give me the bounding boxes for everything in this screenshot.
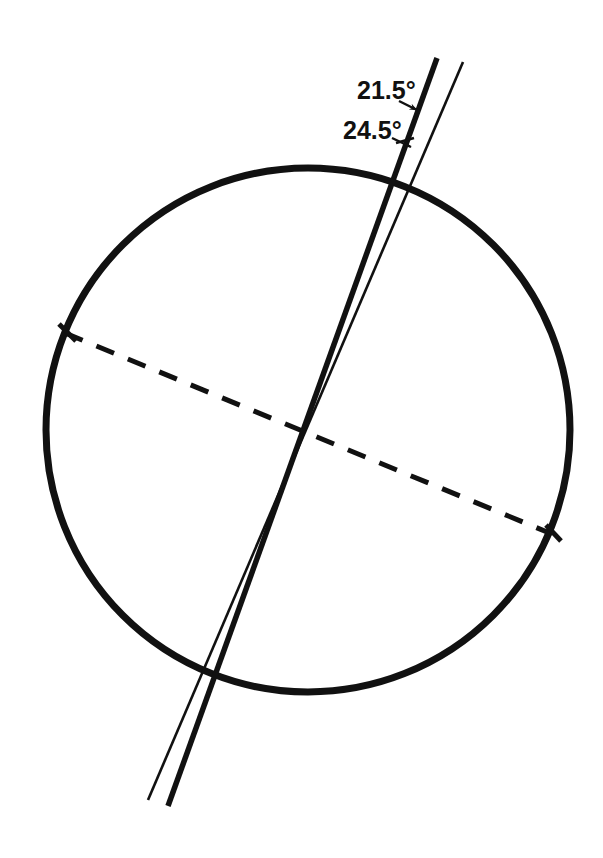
diagram-canvas: 21.5° 24.5° [0,0,603,858]
diagram-root: 21.5° 24.5° [0,0,603,858]
angle-label-24-5: 24.5° [343,116,402,144]
angle-label-21-5: 21.5° [357,76,416,104]
